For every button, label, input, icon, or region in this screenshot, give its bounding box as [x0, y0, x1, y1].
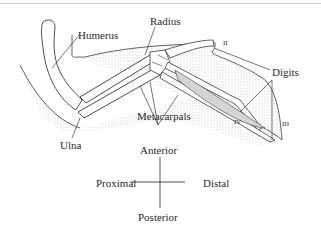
label-ulna: Ulna — [60, 139, 81, 151]
label-humerus: Humerus — [78, 29, 118, 41]
label-digit-iv: IV — [234, 118, 241, 126]
label-metacarpals: Metacarpals — [137, 110, 191, 122]
label-digits: Digits — [272, 66, 299, 78]
label-anterior: Anterior — [140, 144, 177, 156]
label-radius: Radius — [150, 15, 181, 27]
label-digit-ii: II — [223, 39, 228, 47]
label-posterior: Posterior — [138, 211, 178, 223]
label-digit-iii: III — [282, 120, 289, 128]
label-distal: Distal — [203, 177, 229, 189]
label-proximal: Proximal — [96, 177, 136, 189]
